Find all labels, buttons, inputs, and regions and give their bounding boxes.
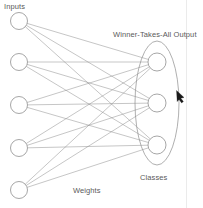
output-nodes-group — [148, 53, 166, 154]
weight-edge — [27, 107, 148, 142]
weight-edge — [27, 106, 148, 146]
input-nodes-group — [11, 13, 28, 199]
input-node-5 — [11, 182, 28, 199]
weight-edge — [27, 64, 148, 100]
input-node-1 — [11, 13, 28, 30]
input-node-4 — [11, 140, 28, 157]
weight-edge — [26, 108, 149, 186]
weight-edge — [25, 68, 150, 184]
weight-edge — [27, 148, 148, 188]
weight-edge — [26, 67, 149, 144]
input-node-2 — [11, 54, 28, 71]
weight-edge — [27, 23, 148, 59]
weight-edge — [25, 27, 150, 139]
mouse-cursor-icon — [177, 91, 185, 103]
output-node-3 — [148, 136, 166, 154]
input-node-3 — [11, 97, 28, 114]
output-node-2 — [148, 94, 166, 112]
output-node-1 — [148, 53, 166, 71]
label-winner-takes-all-output: Winner-Takes-All Output — [113, 30, 197, 39]
neural-network-diagram: Inputs Winner-Takes-All Output Classes W… — [0, 0, 203, 208]
label-classes: Classes — [140, 173, 167, 182]
weight-edges-group — [25, 23, 150, 187]
weight-edge — [27, 65, 148, 103]
label-inputs: Inputs — [4, 2, 25, 11]
label-weights: Weights — [73, 186, 101, 195]
